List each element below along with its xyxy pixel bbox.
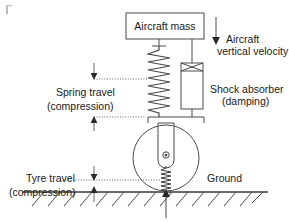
vertical-velocity-arrowhead [212, 37, 220, 45]
wheel-fork-strut [158, 123, 174, 168]
axle-hub-center [165, 154, 168, 157]
mass-to-spring-stem [152, 39, 159, 46]
corner-artifact-tick [6, 5, 12, 6]
vertical-velocity-label-line1: Aircraft [226, 33, 259, 45]
tyre-travel-arrow-bottom-head [91, 186, 98, 193]
spring-travel-label-line2: (compression) [47, 100, 114, 112]
vertical-velocity-label-line2: vertical velocity [217, 45, 289, 57]
ground-label: Ground [207, 172, 242, 184]
main-spring-coil [148, 46, 170, 117]
landing-gear-schematic: Aircraft mass [0, 0, 289, 222]
aircraft-mass-label: Aircraft mass [134, 20, 195, 32]
spring-travel-arrow-bottom-head [91, 116, 98, 123]
tyre-travel-label-line2: (compression) [9, 186, 76, 198]
landing-gear-diagram: Aircraft mass [0, 0, 289, 222]
corner-artifact [6, 5, 8, 14]
shock-absorber-label-line1: Shock absorber [210, 83, 284, 95]
spring-travel-label-line1: Spring travel [56, 86, 115, 98]
tyre-spring-coil [161, 166, 171, 192]
tyre-travel-label-line1: Tyre travel [26, 172, 75, 184]
shock-absorber-label-line2: (damping) [222, 95, 269, 107]
spring-travel-arrow-top-head [91, 73, 98, 80]
